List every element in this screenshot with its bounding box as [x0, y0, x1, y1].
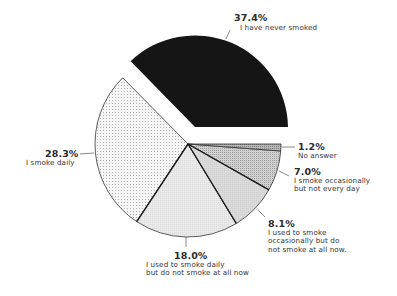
label-used-occasionally: 8.1% I used to smoke occasionally but do…: [268, 218, 347, 254]
label-text: I smoke daily: [26, 159, 78, 167]
label-never-smoked: 37.4% I have never smoked: [234, 12, 317, 32]
label-text: I used to smoke daily but do not smoke a…: [146, 261, 249, 278]
label-smoke-daily: 28.3% I smoke daily: [26, 148, 78, 167]
label-smoke-occasionally: 7.0% I smoke occasionally but not every …: [294, 166, 370, 194]
label-used-daily: 18.0% I used to smoke daily but do not s…: [146, 250, 249, 278]
label-text: No answer: [298, 152, 337, 160]
label-pct: 37.4%: [234, 12, 317, 23]
label-no-answer: 1.2% No answer: [298, 141, 337, 160]
label-text: I smoke occasionally but not every day: [294, 177, 370, 194]
label-text: I have never smoked: [240, 24, 317, 32]
label-text: I used to smoke occasionally but do not …: [268, 229, 347, 254]
